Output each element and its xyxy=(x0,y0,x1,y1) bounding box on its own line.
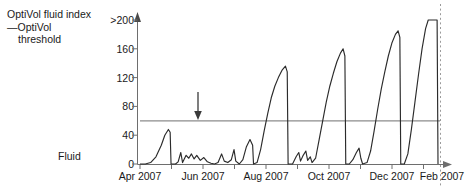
event-arrow-annotation xyxy=(194,92,202,120)
axes xyxy=(134,12,452,168)
x-tick-marks xyxy=(140,165,424,170)
event-arrow-head xyxy=(194,111,202,120)
x-axis-arrowhead xyxy=(443,161,452,168)
y-tick-marks xyxy=(132,20,138,164)
optivol-fluid-index-curve xyxy=(140,20,438,164)
